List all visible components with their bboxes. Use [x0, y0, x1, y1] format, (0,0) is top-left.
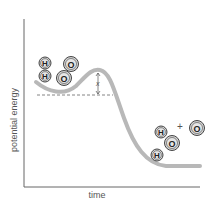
- svg-text:H: H: [158, 128, 164, 137]
- product-oxygen-atom: O: [190, 121, 205, 136]
- svg-text:O: O: [60, 74, 67, 84]
- svg-text:H: H: [154, 151, 160, 160]
- svg-text:H: H: [42, 59, 48, 68]
- hydrogen-atom: H: [39, 70, 51, 82]
- reactant-h2-molecule: H H: [39, 57, 51, 82]
- oxygen-atom: O: [57, 71, 72, 86]
- svg-text:O: O: [193, 124, 200, 134]
- activation-energy-label: x: [95, 80, 100, 87]
- svg-text:O: O: [168, 139, 175, 149]
- oxygen-atom: O: [165, 136, 180, 151]
- svg-text:H: H: [42, 72, 48, 81]
- hydrogen-atom: H: [155, 126, 167, 138]
- y-axis-label: potential energy: [9, 87, 19, 152]
- svg-text:O: O: [67, 60, 74, 70]
- product-h2o-molecule: H H O: [151, 126, 180, 161]
- plus-sign: +: [177, 121, 183, 132]
- x-axis-label: time: [88, 190, 105, 200]
- hydrogen-atom: H: [151, 149, 163, 161]
- reactant-o2-molecule: O O: [57, 57, 79, 86]
- hydrogen-atom: H: [39, 57, 51, 69]
- oxygen-atom: O: [64, 57, 79, 72]
- energy-diagram: potential energy time x H H O: [0, 0, 217, 206]
